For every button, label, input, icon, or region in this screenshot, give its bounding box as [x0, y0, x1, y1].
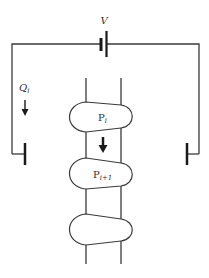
charge-label: Qi	[19, 82, 29, 95]
circuit-wires	[12, 44, 199, 154]
battery-icon	[101, 31, 107, 57]
charge-label-subscript: i	[27, 87, 29, 95]
capsule-p-i-plus-1: Pi+1	[70, 158, 133, 189]
wire-top-right	[106, 44, 199, 154]
battery-label: V	[100, 15, 109, 26]
wire-top-left	[12, 44, 101, 154]
capsule-p-i: Pi	[70, 102, 133, 132]
charge-flow-arrow-icon	[22, 100, 29, 116]
capsule-motion-arrow-icon	[99, 137, 108, 153]
diagram-canvas: V Qi Pi Pi+1	[0, 0, 209, 278]
charge-label-main: Q	[19, 82, 27, 93]
